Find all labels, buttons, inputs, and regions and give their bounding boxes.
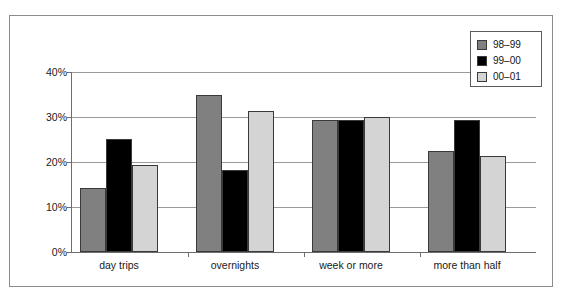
bar (196, 95, 222, 253)
legend-swatch-00-01 (477, 72, 487, 82)
y-tick-mark (67, 252, 72, 253)
legend-label: 99–00 (493, 56, 521, 66)
bar (364, 117, 390, 252)
bar (480, 156, 506, 252)
legend-swatch-99-00 (477, 56, 487, 66)
bar-group (196, 72, 274, 252)
x-tick-mark (304, 252, 305, 257)
y-axis-tick-labels: 0%10%20%30%40% (20, 0, 67, 301)
y-tick-label: 0% (52, 246, 67, 258)
legend-item: 98–99 (477, 37, 535, 52)
x-category-label: more than half (433, 259, 500, 271)
bar (222, 170, 248, 252)
y-tick-label: 10% (46, 201, 67, 213)
bar (338, 120, 364, 252)
x-category-label: week or more (319, 259, 383, 271)
bar (428, 151, 454, 252)
x-category-label: day trips (99, 259, 139, 271)
bar (454, 120, 480, 252)
bar (106, 139, 132, 252)
y-tick-label: 30% (46, 111, 67, 123)
legend-item: 00–01 (477, 69, 535, 84)
bar (312, 120, 338, 252)
legend-item: 99–00 (477, 53, 535, 68)
x-category-label: overnights (211, 259, 259, 271)
bar-group (428, 72, 506, 252)
y-tick-label: 20% (46, 156, 67, 168)
chart-legend: 98–9999–0000–01 (470, 31, 542, 87)
bar-group (80, 72, 158, 252)
x-tick-mark (420, 252, 421, 257)
y-tick-mark (67, 162, 72, 163)
x-tick-mark (188, 252, 189, 257)
legend-label: 98–99 (493, 40, 521, 50)
bar-group (312, 72, 390, 252)
y-tick-label: 40% (46, 66, 67, 78)
legend-label: 00–01 (493, 72, 521, 82)
y-tick-mark (67, 207, 72, 208)
bar (132, 165, 158, 252)
y-tick-mark (67, 117, 72, 118)
bar (80, 188, 106, 252)
y-tick-mark (67, 72, 72, 73)
bar-chart-figure: 0%10%20%30%40% day tripsovernightsweek o… (0, 0, 571, 301)
bar (248, 111, 274, 252)
legend-swatch-98-99 (477, 40, 487, 50)
